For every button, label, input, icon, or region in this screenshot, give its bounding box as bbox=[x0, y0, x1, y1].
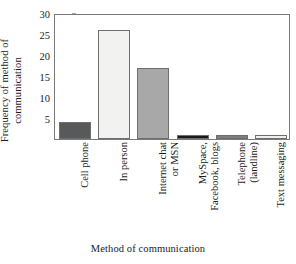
bar bbox=[98, 30, 130, 139]
bar-series bbox=[55, 15, 289, 139]
y-tick-label: 15 bbox=[40, 72, 51, 83]
x-tick-label: Internet chat or MSN bbox=[157, 142, 181, 238]
x-tick-label: Telephone (landline) bbox=[236, 142, 260, 238]
bar bbox=[177, 135, 209, 139]
x-axis-title: Method of communication bbox=[0, 243, 296, 254]
x-tick-label: Text messaging bbox=[275, 142, 287, 238]
y-axis-ticks: 51015202530 bbox=[22, 14, 50, 140]
plot-area bbox=[54, 14, 290, 140]
y-tick-label: 5 bbox=[45, 114, 50, 125]
y-tick-label: 30 bbox=[40, 9, 51, 20]
x-tick-label: Cell phone bbox=[79, 142, 91, 238]
bar bbox=[137, 68, 169, 139]
bar bbox=[255, 135, 287, 139]
y-tick-label: 25 bbox=[40, 30, 51, 41]
x-tick-label: MySpace, Facebook, blogs bbox=[197, 142, 221, 238]
bar bbox=[216, 135, 248, 139]
y-tick-label: 20 bbox=[40, 51, 51, 62]
bar-chart-figure: Frequency of method of communication 510… bbox=[0, 0, 296, 264]
x-axis-ticks: Cell phoneIn personInternet chat or MSNM… bbox=[54, 142, 290, 238]
x-tick-label: In person bbox=[118, 142, 130, 238]
y-tick-label: 10 bbox=[40, 93, 51, 104]
bar bbox=[59, 122, 91, 139]
y-axis-title: Frequency of method of communication bbox=[0, 16, 24, 166]
